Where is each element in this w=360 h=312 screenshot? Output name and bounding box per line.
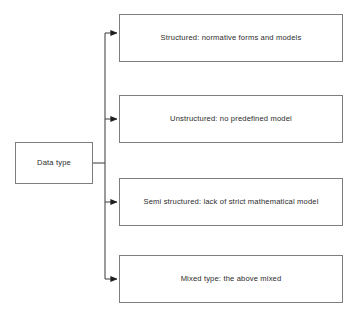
- node-structured[interactable]: Structured: normative forms and models: [119, 14, 343, 62]
- node-unstructured-label: Unstructured: no predefined model: [166, 114, 296, 123]
- node-structured-label: Structured: normative forms and models: [157, 33, 306, 42]
- node-unstructured[interactable]: Unstructured: no predefined model: [119, 95, 343, 143]
- node-data-type-label: Data type: [33, 158, 75, 167]
- diagram-canvas: Data type Structured: normative forms an…: [0, 0, 360, 312]
- node-mixed-type[interactable]: Mixed type: the above mixed: [119, 255, 343, 303]
- node-data-type[interactable]: Data type: [15, 142, 93, 184]
- node-semi-structured-label: Semi structured: lack of strict mathemat…: [141, 197, 320, 206]
- node-semi-structured[interactable]: Semi structured: lack of strict mathemat…: [119, 178, 343, 226]
- node-mixed-type-label: Mixed type: the above mixed: [177, 274, 286, 283]
